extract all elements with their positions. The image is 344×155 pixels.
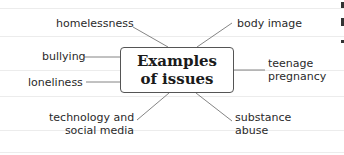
branch-homelessness: homelessness [56, 17, 134, 30]
branch-substance-abuse: substance abuse [235, 111, 291, 137]
branch-label: abuse [235, 124, 291, 137]
branch-label: homelessness [56, 17, 134, 30]
branch-label: social media [49, 124, 134, 137]
branch-body-image: body image [237, 17, 302, 30]
branch-label: loneliness [28, 76, 83, 89]
branch-label: body image [237, 17, 302, 30]
central-topic-line-2: of issues [140, 70, 213, 88]
branch-label: teenage [268, 57, 326, 70]
branch-label: substance [235, 111, 291, 124]
branch-teenage-pregnancy: teenage pregnancy [268, 57, 326, 83]
branch-bullying: bullying [42, 50, 86, 63]
branch-technology-social-media: technology and social media [49, 111, 134, 137]
branch-loneliness: loneliness [28, 76, 83, 89]
branch-label: pregnancy [268, 70, 326, 83]
central-topic-line-1: Examples [137, 52, 217, 70]
central-topic-box: Examples of issues [120, 47, 234, 93]
branch-label: bullying [42, 50, 86, 63]
branch-label: technology and [49, 111, 134, 124]
